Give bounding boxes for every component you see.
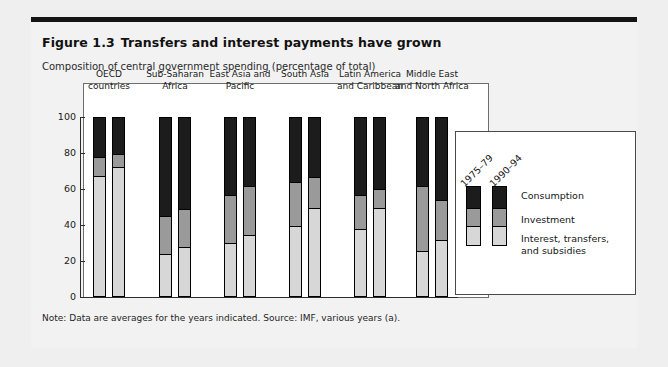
- segment-consumption: [355, 118, 366, 195]
- legend-entry-label: Consumption: [521, 190, 584, 201]
- legend-swatch-investment: [467, 208, 480, 226]
- segment-interest: [160, 255, 171, 296]
- segment-investment: [225, 195, 236, 245]
- segment-consumption: [225, 118, 236, 195]
- legend-entry-label: Interest, transfers, and subsidies: [521, 233, 609, 257]
- legend-swatch-consumption: [493, 187, 506, 208]
- segment-interest: [417, 252, 428, 297]
- segment-investment: [290, 182, 301, 227]
- segment-consumption: [374, 118, 385, 189]
- segment-consumption: [113, 118, 124, 154]
- segment-interest: [244, 236, 255, 297]
- segment-investment: [436, 200, 447, 241]
- legend-swatch-consumption: [467, 187, 480, 208]
- segment-consumption: [94, 118, 105, 157]
- segment-consumption: [417, 118, 428, 186]
- legend-sample-bar: [466, 186, 481, 246]
- legend-entry-label: Investment: [521, 214, 575, 225]
- segment-interest: [225, 244, 236, 296]
- segment-interest: [113, 168, 124, 296]
- bar-column: [243, 117, 256, 297]
- segment-investment: [113, 154, 124, 168]
- bar-column: [159, 117, 172, 297]
- legend-swatch-interest: [467, 227, 480, 245]
- segment-consumption: [244, 118, 255, 186]
- segment-investment: [374, 189, 385, 209]
- segment-consumption: [309, 118, 320, 177]
- bar-column: [308, 117, 321, 297]
- legend-swatch-interest: [493, 227, 506, 245]
- segment-consumption: [160, 118, 171, 216]
- segment-interest: [374, 209, 385, 296]
- segment-consumption: [290, 118, 301, 182]
- segment-investment: [244, 186, 255, 236]
- legend-swatch-investment: [493, 208, 506, 226]
- segment-interest: [94, 177, 105, 296]
- segment-interest: [436, 241, 447, 296]
- bar-column: [93, 117, 106, 297]
- bar-column: [373, 117, 386, 297]
- bar-column: [289, 117, 302, 297]
- segment-interest: [290, 227, 301, 296]
- segment-investment: [417, 186, 428, 252]
- bar-column: [178, 117, 191, 297]
- segment-investment: [94, 157, 105, 177]
- segment-investment: [160, 216, 171, 255]
- segment-investment: [309, 177, 320, 209]
- segment-interest: [179, 248, 190, 296]
- segment-investment: [355, 195, 366, 231]
- segment-consumption: [436, 118, 447, 200]
- bar-column: [224, 117, 237, 297]
- bar-column: [416, 117, 429, 297]
- legend: 1975–791990–94ConsumptionInvestmentInter…: [455, 131, 636, 295]
- segment-interest: [355, 230, 366, 296]
- bar-column: [435, 117, 448, 297]
- segment-consumption: [179, 118, 190, 209]
- segment-interest: [309, 209, 320, 296]
- segment-investment: [179, 209, 190, 248]
- bar-column: [354, 117, 367, 297]
- legend-sample-bar: [492, 186, 507, 246]
- bar-column: [112, 117, 125, 297]
